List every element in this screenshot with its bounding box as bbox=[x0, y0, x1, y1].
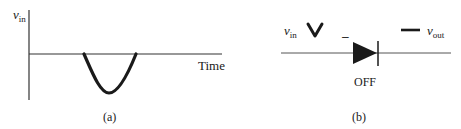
diode-triangle-icon bbox=[353, 42, 377, 64]
vin-input-label: vin bbox=[284, 24, 297, 40]
caption-b: (b) bbox=[352, 111, 366, 123]
vin-subscript: in bbox=[19, 14, 26, 24]
diagram-canvas bbox=[0, 0, 461, 129]
time-axis-label: Time bbox=[198, 59, 225, 72]
panel-b-circuit bbox=[281, 24, 451, 66]
diode-polarity-minus: – bbox=[342, 31, 349, 43]
input-pulse-icon bbox=[308, 24, 322, 36]
vin-axis-label: vin bbox=[13, 8, 26, 24]
panel-a-graph bbox=[29, 10, 222, 100]
diode-state-label: OFF bbox=[354, 76, 376, 88]
negative-half-cycle-waveform bbox=[84, 54, 136, 93]
vout-subscript: out bbox=[433, 30, 445, 40]
vin-input-subscript: in bbox=[290, 30, 297, 40]
caption-a: (a) bbox=[103, 111, 116, 123]
vout-output-label: vout bbox=[427, 24, 444, 40]
